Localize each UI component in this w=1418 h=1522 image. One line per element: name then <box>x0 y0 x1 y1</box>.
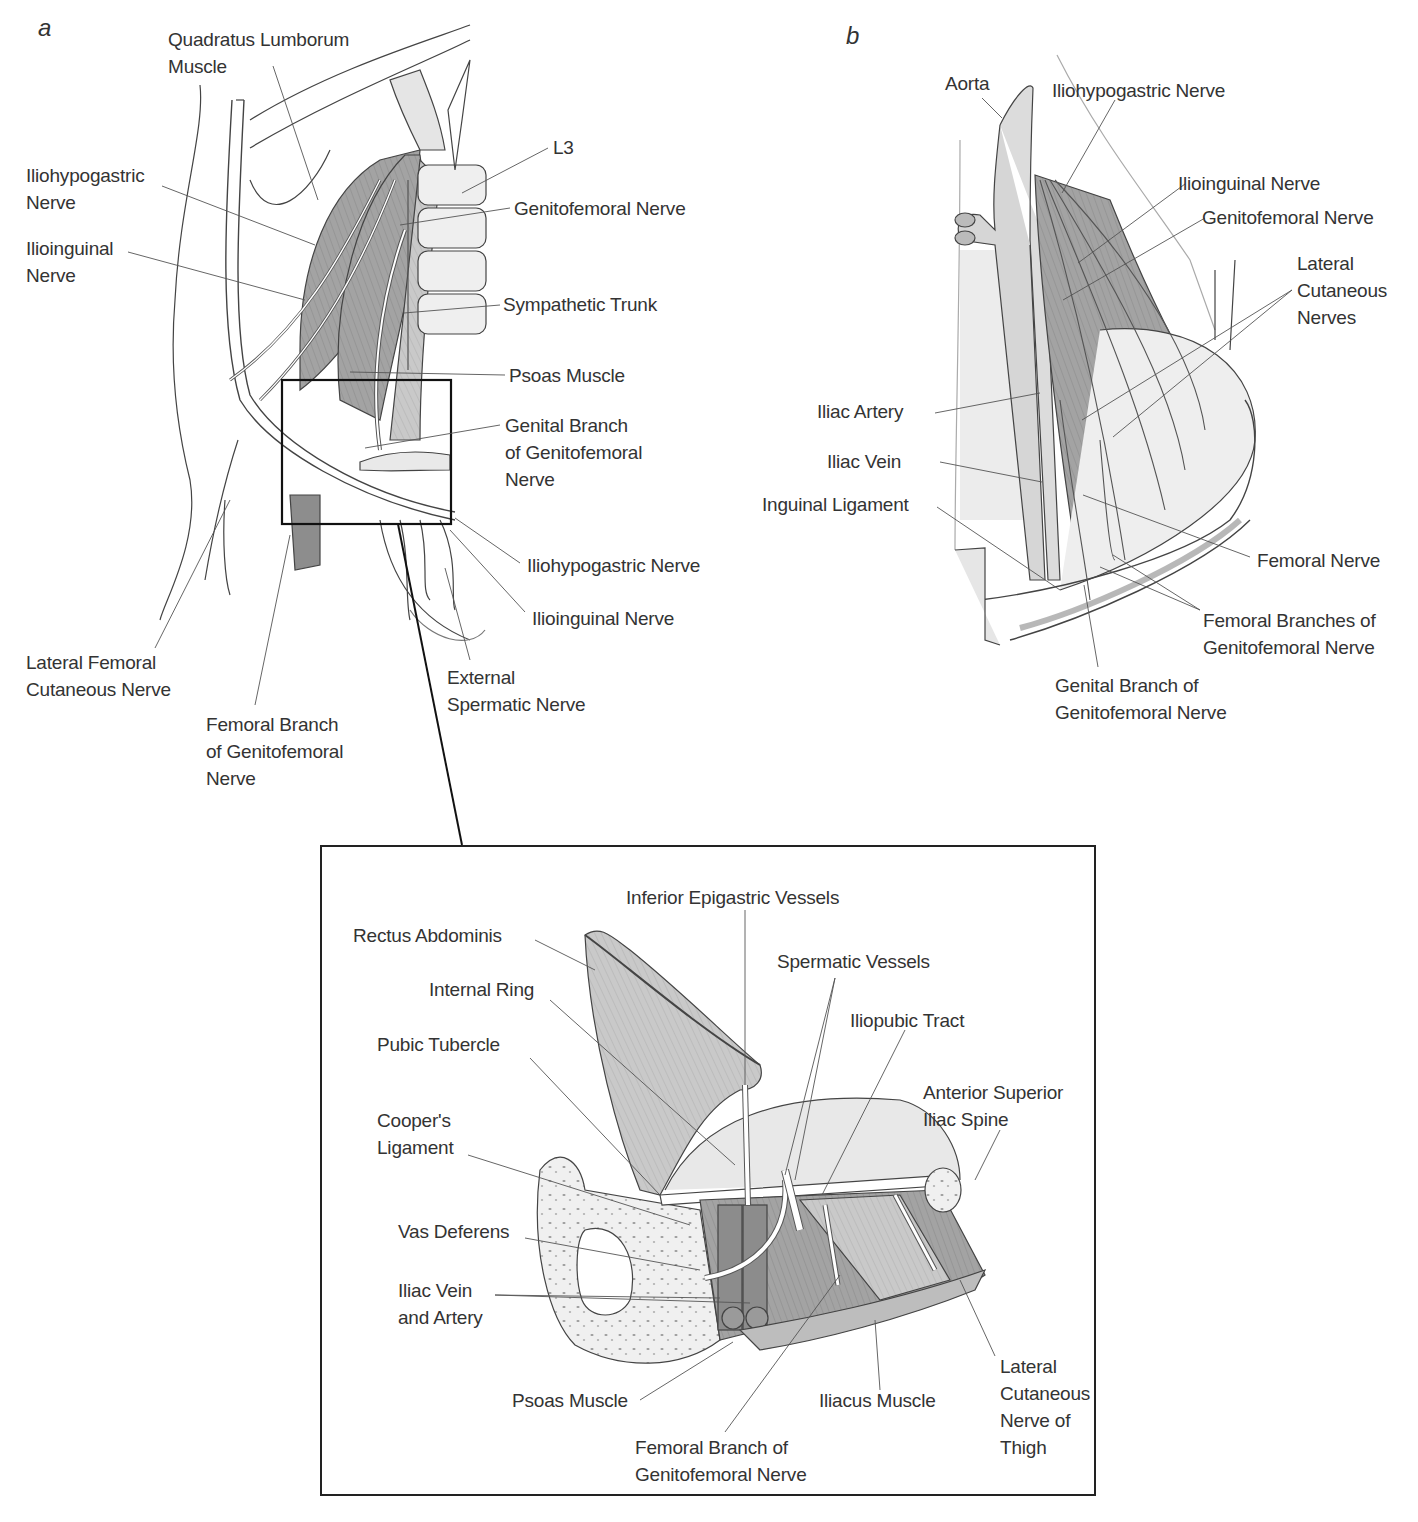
label-lateral-cutaneous-nerve-of-thigh: Lateral Cutaneous Nerve of Thigh <box>1000 1353 1090 1461</box>
label-genitofemoral-nerve-b: Genitofemoral Nerve <box>1202 204 1374 231</box>
label-iliacus-muscle: Iliacus Muscle <box>819 1387 936 1414</box>
label-lateral-cutaneous-nerves: Lateral Cutaneous Nerves <box>1297 250 1387 331</box>
label-sympathetic-trunk: Sympathetic Trunk <box>503 291 657 318</box>
label-femoral-nerve: Femoral Nerve <box>1257 547 1380 574</box>
label-quadratus-lumborum: Quadratus Lumborum Muscle <box>168 26 349 80</box>
label-external-spermatic-nerve: External Spermatic Nerve <box>447 664 586 718</box>
label-iliac-vein-b: Iliac Vein <box>827 448 901 475</box>
label-inguinal-ligament: Inguinal Ligament <box>762 491 909 518</box>
label-ilioinguinal-nerve-a-right: Ilioinguinal Nerve <box>532 605 674 632</box>
label-iliohypogastric-nerve-a-right: Iliohypogastric Nerve <box>527 552 700 579</box>
label-femoral-branch-a: Femoral Branch of Genitofemoral Nerve <box>206 711 343 792</box>
label-psoas-muscle-inset: Psoas Muscle <box>512 1387 628 1414</box>
label-coopers-ligament: Cooper's Ligament <box>377 1107 454 1161</box>
label-genital-branch-b: Genital Branch of Genitofemoral Nerve <box>1055 672 1227 726</box>
label-internal-ring: Internal Ring <box>429 976 534 1003</box>
label-lateral-femoral-cutaneous: Lateral Femoral Cutaneous Nerve <box>26 649 171 703</box>
panel-b-letter: b <box>846 22 859 50</box>
label-vas-deferens: Vas Deferens <box>398 1218 509 1245</box>
label-l3: L3 <box>553 134 574 161</box>
label-iliohypogastric-nerve-a-left: Iliohypogastric Nerve <box>26 162 144 216</box>
label-ilioinguinal-nerve-b: Ilioinguinal Nerve <box>1178 170 1320 197</box>
panel-a-letter: a <box>38 14 51 42</box>
label-genitofemoral-nerve-a: Genitofemoral Nerve <box>514 195 686 222</box>
label-psoas-muscle-a: Psoas Muscle <box>509 362 625 389</box>
panel-b-drawing <box>955 55 1255 645</box>
label-spermatic-vessels: Spermatic Vessels <box>777 948 930 975</box>
label-iliopubic-tract: Iliopubic Tract <box>850 1007 964 1034</box>
label-iliac-vein-and-artery: Iliac Vein and Artery <box>398 1277 483 1331</box>
label-pubic-tubercle: Pubic Tubercle <box>377 1031 500 1058</box>
label-femoral-branch-inset: Femoral Branch of Genitofemoral Nerve <box>635 1434 807 1488</box>
label-ilioinguinal-nerve-a-left: Ilioinguinal Nerve <box>26 235 113 289</box>
label-inferior-epigastric-vessels: Inferior Epigastric Vessels <box>626 884 839 911</box>
label-genital-branch-a: Genital Branch of Genitofemoral Nerve <box>505 412 642 493</box>
label-iliac-artery-b: Iliac Artery <box>817 398 903 425</box>
label-anterior-superior-iliac-spine: Anterior Superior Iliac Spine <box>923 1079 1063 1133</box>
label-iliohypogastric-nerve-b: Iliohypogastric Nerve <box>1052 77 1225 104</box>
label-femoral-branches-b: Femoral Branches of Genitofemoral Nerve <box>1203 607 1376 661</box>
label-rectus-abdominis: Rectus Abdominis <box>353 922 502 949</box>
label-aorta: Aorta <box>945 70 989 97</box>
